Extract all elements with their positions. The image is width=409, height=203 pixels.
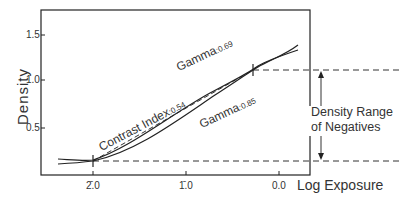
y-tick-label-0.5: 0.5 (26, 122, 40, 133)
density-range-label-line1: Density Range (311, 105, 393, 119)
density-range-label-line2: of Negatives (311, 120, 380, 134)
x-axis-label: Log Exposure (297, 177, 383, 193)
arrow-down-head (318, 153, 324, 160)
y-tick-label-1.0: 1.0 (26, 74, 40, 85)
plot-frame (41, 10, 310, 175)
arrow-up-head (318, 71, 324, 78)
y-tick-label-1.5: 1.5 (26, 29, 40, 40)
x-tick-label-1.0: 1̄.0 (179, 180, 193, 191)
x-tick-label-0.0: 0.0 (272, 180, 286, 191)
x-tick-label-2.0: 2̄.0 (86, 180, 100, 191)
chart-canvas (0, 0, 409, 203)
